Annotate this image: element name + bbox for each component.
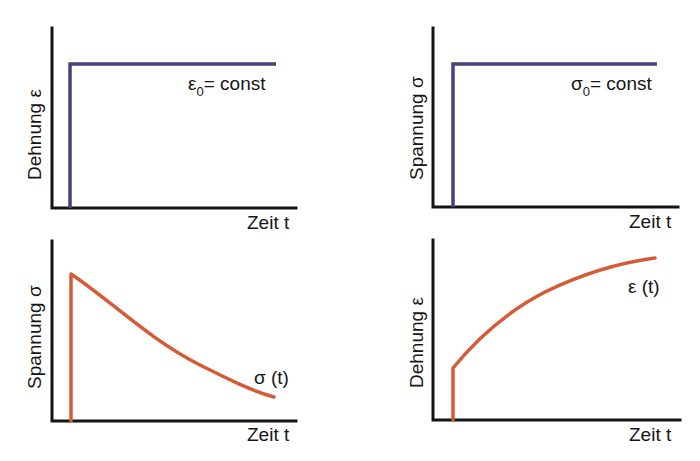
- y-axis-label: Dehnung ε: [24, 89, 45, 180]
- y-axis-label: Spannung σ: [406, 76, 427, 180]
- annotation-eps0-const: ε0= const: [188, 73, 266, 99]
- annotation-eps-t: ε (t): [628, 276, 660, 297]
- x-axis-label: Zeit t: [629, 424, 672, 445]
- axes: [433, 240, 680, 420]
- y-axis-label: Spannung σ: [24, 285, 45, 389]
- creep-curve: [453, 258, 655, 420]
- annotation-sigma-t: σ (t): [254, 367, 289, 388]
- panel-top-left: ε0= const Zeit t Dehnung ε: [24, 28, 296, 233]
- panel-bottom-right: ε (t) Zeit t Dehnung ε: [406, 240, 680, 445]
- stress-relaxation-curve: [71, 274, 274, 421]
- axes: [52, 28, 296, 208]
- y-axis-label: Dehnung ε: [406, 297, 427, 388]
- x-axis-label: Zeit t: [629, 211, 672, 232]
- axes: [433, 28, 678, 207]
- x-axis-label: Zeit t: [247, 424, 290, 445]
- viscoelastic-diagram: ε0= const Zeit t Dehnung ε σ0= const Zei…: [0, 0, 700, 461]
- panel-top-right: σ0= const Zeit t Spannung σ: [406, 28, 678, 232]
- panel-bottom-left: σ (t) Zeit t Spannung σ: [24, 241, 296, 445]
- x-axis-label: Zeit t: [247, 212, 290, 233]
- annotation-sigma0-const: σ0= const: [571, 73, 652, 99]
